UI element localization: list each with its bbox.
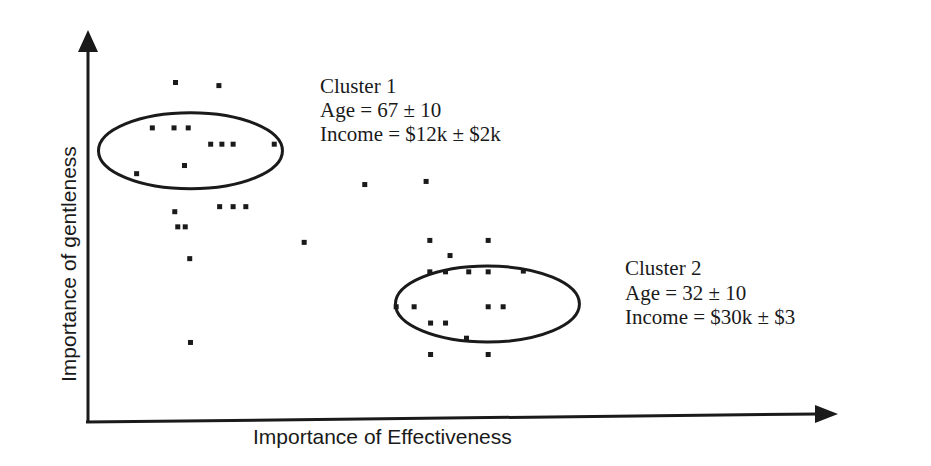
cluster-2-point (428, 352, 433, 357)
outlier-point (424, 179, 429, 184)
cluster-2-point (486, 352, 491, 357)
cluster-2-point (428, 321, 433, 326)
cluster-1-point (219, 142, 224, 147)
cluster-1-ellipse (98, 113, 282, 189)
cluster-2-point (448, 253, 453, 258)
cluster-1-point (183, 224, 188, 229)
cluster-2-point (486, 269, 491, 274)
cluster-1-annotation: Cluster 1 Age = 67 ± 10 Income = $12k ± … (320, 74, 501, 146)
cluster-1-point (272, 142, 277, 147)
cluster-2-point (427, 238, 432, 243)
cluster-2-age: Age = 32 ± 10 (625, 281, 746, 305)
cluster-2-point (443, 269, 448, 274)
cluster-1-point (216, 83, 221, 88)
outlier-point (302, 240, 307, 245)
cluster-2-point (427, 269, 432, 274)
cluster-1-point (231, 142, 236, 147)
y-axis-label: Importance of gentleness (57, 146, 80, 382)
cluster-2-point (466, 269, 471, 274)
cluster-1-title: Cluster 1 (320, 74, 396, 98)
cluster-1-point (186, 125, 191, 130)
cluster-1-income: Income = $12k ± $2k (320, 122, 501, 146)
cluster-1-point (150, 125, 155, 130)
cluster-1-point (231, 204, 236, 209)
cluster-2-point (412, 304, 417, 309)
cluster-1-point (134, 171, 139, 176)
x-axis (86, 414, 818, 422)
cluster-2-point (521, 269, 526, 274)
x-axis-label: Importance of Effectiveness (253, 425, 512, 448)
cluster-1-age: Age = 67 ± 10 (320, 98, 441, 122)
cluster-2-point (443, 321, 448, 326)
outlier-point (362, 182, 367, 187)
cluster-1-point (208, 142, 213, 147)
cluster-2-point (486, 238, 491, 243)
cluster-2-income: Income = $30k ± $3 (625, 305, 795, 329)
cluster-2-title: Cluster 2 (625, 256, 701, 280)
cluster-1-point (217, 204, 222, 209)
cluster-1-point (172, 209, 177, 214)
cluster-2-ellipse (395, 266, 579, 342)
x-axis-arrowhead (815, 405, 838, 423)
cluster-1-point (173, 80, 178, 85)
cluster-2-annotation: Cluster 2 Age = 32 ± 10 Income = $30k ± … (625, 256, 795, 329)
cluster-1-point (182, 163, 187, 168)
cluster-scatter-chart: Importance of Effectiveness Importance o… (0, 0, 931, 466)
cluster-2-point (394, 304, 399, 309)
cluster-2-point (464, 336, 469, 341)
cluster-1-point (175, 224, 180, 229)
y-axis-arrowhead (78, 30, 98, 52)
cluster-1-point (172, 125, 177, 130)
cluster-1-point (243, 204, 248, 209)
cluster-2-point (486, 304, 491, 309)
outlier-point (187, 256, 192, 261)
cluster-2-point (501, 304, 506, 309)
outlier-point (188, 340, 193, 345)
